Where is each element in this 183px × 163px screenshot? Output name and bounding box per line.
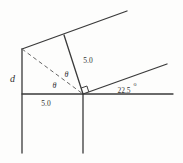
diagram-canvas: d 5.0 5.0 22.5 o θ θ — [0, 0, 183, 163]
degree-symbol: o — [134, 81, 137, 87]
angle-22-5-label: 22.5 — [117, 86, 130, 95]
geometry-figure: d 5.0 5.0 22.5 o θ θ — [0, 0, 183, 163]
lower-length-label: 5.0 — [41, 99, 51, 108]
perpendicular-segment-line — [64, 35, 83, 94]
upper-length-label: 5.0 — [83, 56, 93, 65]
top-incline-line — [22, 11, 127, 49]
d-dimension-label: d — [10, 73, 16, 84]
theta-upper-label: θ — [65, 70, 69, 79]
theta-lower-label: θ — [53, 81, 57, 90]
